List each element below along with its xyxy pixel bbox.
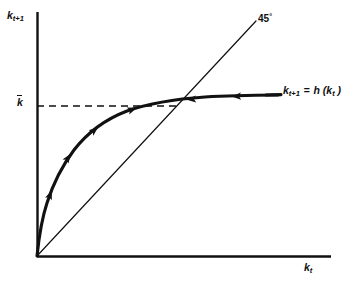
function-label-lhs: k: [283, 84, 289, 96]
y-axis-label-base: k: [7, 9, 13, 21]
degree-sign-icon: °: [269, 12, 272, 21]
diagonal-45-value: 45: [258, 13, 269, 24]
steady-state-label-base: k: [17, 97, 23, 108]
figure-svg: [0, 0, 356, 282]
function-label-equals: =: [300, 84, 313, 96]
function-label: kt+1 = h (kt ): [283, 85, 341, 96]
h-function-curve: [37, 95, 278, 256]
figure-canvas: kt+1 kt 45° k kt+1 = h (kt ): [0, 0, 356, 282]
x-axis-label-base: k: [304, 261, 310, 273]
y-axis-label: kt+1: [7, 10, 24, 21]
function-label-close-paren: ): [335, 84, 341, 96]
function-label-lhs-subscript: t+1: [289, 89, 300, 98]
diagonal-45-line: [37, 21, 256, 256]
curve-arrowheads-forward: [45, 104, 138, 200]
function-label-argument-subscript: t: [332, 89, 335, 98]
steady-state-label: k: [17, 97, 23, 108]
x-axis-label-subscript: t: [310, 266, 313, 275]
diagonal-45-label: 45°: [258, 14, 272, 24]
x-axis-label: kt: [304, 262, 312, 273]
y-axis-label-subscript: t+1: [13, 14, 24, 23]
